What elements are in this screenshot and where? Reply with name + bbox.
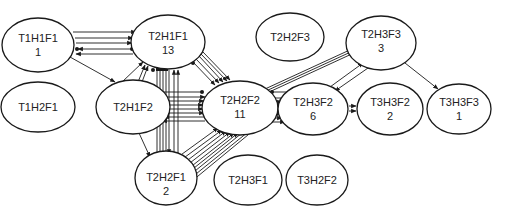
- node-t3h3f2: T3H3F2 2: [357, 83, 423, 135]
- node-t2h3f3: T2H3F3 3: [346, 16, 416, 70]
- node-label: T3H2F2: [297, 174, 337, 186]
- node-t2h2f3: T2H2F3: [256, 13, 324, 61]
- node-count: 2: [163, 185, 169, 197]
- node-count: 13: [162, 44, 174, 56]
- node-t2h3f1: T2H3F1: [214, 155, 282, 205]
- node-count: 11: [234, 108, 245, 120]
- edge-t2h1f1-to-t1h1f1: [75, 47, 134, 54]
- edge-t2h1f2-to-t2h1f1: [122, 62, 148, 82]
- node-t2h1f2: T2H1F2: [96, 80, 170, 134]
- edge-t2h1f2-to-t2h2f1: [139, 133, 150, 157]
- nodes-group: T1H1F1 1 T2H1F1 13 T2H2F3 T2H3F3 3 T1H2F…: [1, 13, 491, 205]
- node-count: 2: [387, 110, 393, 122]
- node-label: T2H1F1: [148, 30, 188, 42]
- edge-t1h1f1-to-t2h1f2: [70, 57, 115, 82]
- node-count: 1: [35, 46, 41, 58]
- node-t3h2f2: T3H2F2: [286, 155, 348, 205]
- node-count: 6: [310, 110, 316, 122]
- node-count: 1: [456, 110, 462, 122]
- node-label: T3H3F2: [370, 96, 410, 108]
- node-label: T1H2F1: [18, 101, 58, 113]
- node-label: T2H3F2: [293, 96, 333, 108]
- node-label: T2H1F2: [113, 101, 153, 113]
- node-label: T3H3F3: [439, 96, 479, 108]
- diagram-canvas: T1H1F1 1 T2H1F1 13 T2H2F3 T2H3F3 3 T1H2F…: [0, 0, 506, 219]
- edge-t1h1f1-to-t2h1f1: [73, 32, 136, 43]
- node-label: T2H3F1: [228, 174, 268, 186]
- node-t2h3f2: T2H3F2 6: [278, 83, 348, 135]
- node-t2h2f2: T2H2F2 11: [202, 81, 278, 135]
- node-t1h2f1: T1H2F1: [1, 82, 75, 132]
- node-t2h1f1: T2H1F1 13: [131, 15, 205, 69]
- node-label: T2H2F2: [220, 94, 260, 106]
- node-t3h3f3: T3H3F3 1: [427, 84, 491, 134]
- node-label: T2H2F3: [270, 31, 310, 43]
- node-count: 3: [378, 42, 384, 54]
- node-t1h1f1: T1H1F1 1: [2, 18, 74, 72]
- node-label: T2H2F1: [146, 171, 186, 183]
- node-label: T1H1F1: [18, 32, 58, 44]
- edge-t2h3f3-to-t3h3f3: [405, 63, 438, 89]
- node-label: T2H3F3: [361, 28, 401, 40]
- edge-t2h3f2-to-t3h3f2: [349, 106, 356, 111]
- node-t2h2f1: T2H2F1 2: [135, 151, 197, 205]
